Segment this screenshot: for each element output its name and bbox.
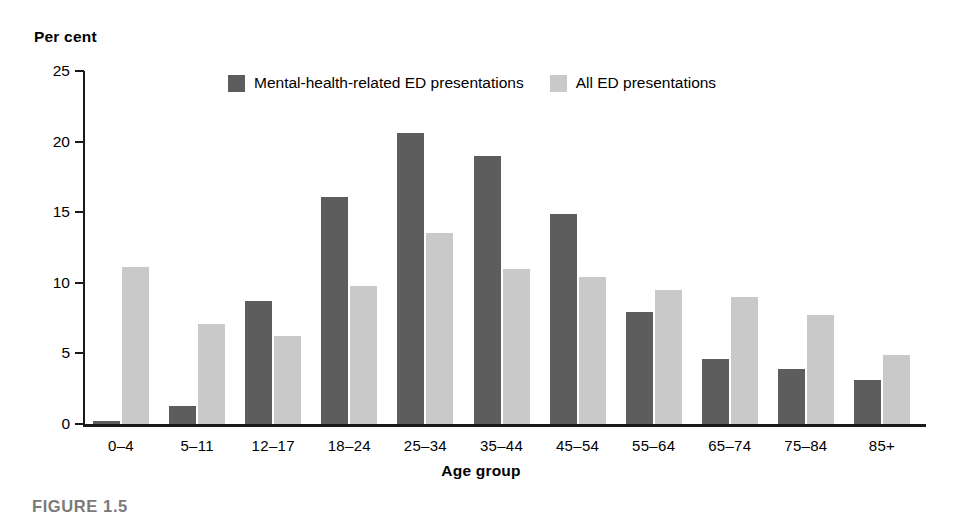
bar <box>702 359 729 424</box>
bar <box>93 421 120 424</box>
bar <box>579 277 606 424</box>
legend-swatch-icon <box>228 75 245 92</box>
y-axis-tick-label: 20 <box>30 133 70 151</box>
legend-label: All ED presentations <box>576 74 716 92</box>
bar <box>198 324 225 424</box>
bar <box>883 355 910 424</box>
bar <box>778 369 805 424</box>
bar <box>807 315 834 424</box>
x-axis-tick-label: 85+ <box>832 437 932 454</box>
bar <box>503 269 530 424</box>
y-axis-tick-label: 25 <box>30 62 70 80</box>
legend-item: Mental-health-related ED presentations <box>228 74 524 92</box>
bar <box>321 197 348 424</box>
legend-label: Mental-health-related ED presentations <box>254 74 524 92</box>
bar <box>426 233 453 424</box>
bar <box>626 312 653 424</box>
bar <box>655 290 682 424</box>
bar <box>350 286 377 424</box>
legend-item: All ED presentations <box>550 74 716 92</box>
y-axis-tick-label: 0 <box>30 415 70 433</box>
chart-legend: Mental-health-related ED presentationsAl… <box>228 74 716 92</box>
figure-container: Per cent 0510152025 0–45–1112–1718–2425–… <box>0 0 962 531</box>
plot-area <box>83 71 920 424</box>
bar <box>854 380 881 424</box>
bar <box>731 297 758 424</box>
bar <box>474 156 501 424</box>
figure-caption: FIGURE 1.5 <box>32 497 128 516</box>
bar <box>274 336 301 424</box>
legend-swatch-icon <box>550 75 567 92</box>
bar <box>169 406 196 424</box>
y-axis-tick-label: 10 <box>30 274 70 292</box>
bar <box>550 214 577 424</box>
y-axis-title: Per cent <box>34 28 97 46</box>
bar <box>245 301 272 424</box>
x-axis-title: Age group <box>0 462 962 480</box>
bar <box>122 267 149 424</box>
x-axis-line <box>83 424 926 427</box>
y-axis-tick-label: 5 <box>30 344 70 362</box>
bar <box>397 133 424 424</box>
y-axis-tick-label: 15 <box>30 203 70 221</box>
